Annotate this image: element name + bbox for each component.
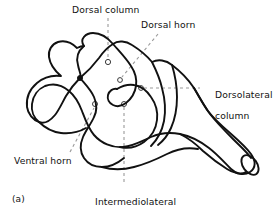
dorsal-lobe-fold (77, 46, 84, 78)
leader-lines (70, 18, 200, 183)
label-intermediolateral-column: Intermediolateral column (83, 186, 176, 219)
leader-dorsal-horn (122, 34, 158, 77)
label-intermediolateral-column-line2: column (95, 217, 129, 220)
ventral-lower-boundary (102, 148, 198, 169)
label-dorsolateral-column: Dorsolateral column (203, 79, 273, 132)
dorsal-horn-outline (108, 44, 137, 106)
label-dorsolateral-column-line2: column (215, 110, 249, 121)
marker-dorsal-horn-icon (118, 78, 123, 83)
label-intermediolateral-column-line1: Intermediolateral (95, 196, 176, 207)
label-dorsolateral-column-line1: Dorsolateral (215, 89, 272, 100)
label-dorsal-column: Dorsal column (72, 5, 139, 16)
figure-spinal-cord-cross-section: Dorsal column Dorsal horn Dorsolateral c… (0, 0, 275, 219)
ventral-funiculus-contour (39, 122, 86, 133)
nerve-root-lower-edge (180, 134, 246, 173)
label-dorsal-horn: Dorsal horn (141, 20, 195, 31)
marker-dorsal-column-icon (105, 59, 110, 64)
label-ventral-horn: Ventral horn (14, 156, 72, 167)
figure-caption: (a) (12, 194, 25, 205)
intermediolateral-column-outline (117, 85, 157, 148)
